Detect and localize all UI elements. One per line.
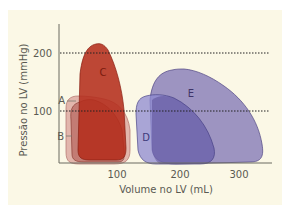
label-a: A [58, 95, 65, 106]
label-c: C [100, 67, 107, 78]
y-tick-200: 200 [33, 48, 52, 59]
x-tick-100: 100 [107, 169, 126, 180]
label-e: E [188, 88, 194, 99]
x-axis-label: Volume no LV (mL) [119, 184, 213, 195]
pv-loop-chart: 200 100 100 200 300 Volume no LV (mL) Pr… [0, 0, 289, 214]
y-axis-label: Pressão no LV (mmHg) [18, 43, 29, 156]
label-d: D [142, 132, 150, 143]
x-tick-300: 300 [229, 169, 248, 180]
y-tick-100: 100 [33, 106, 52, 117]
label-b: B [57, 131, 64, 142]
x-tick-200: 200 [170, 169, 189, 180]
loop-c [78, 44, 126, 160]
